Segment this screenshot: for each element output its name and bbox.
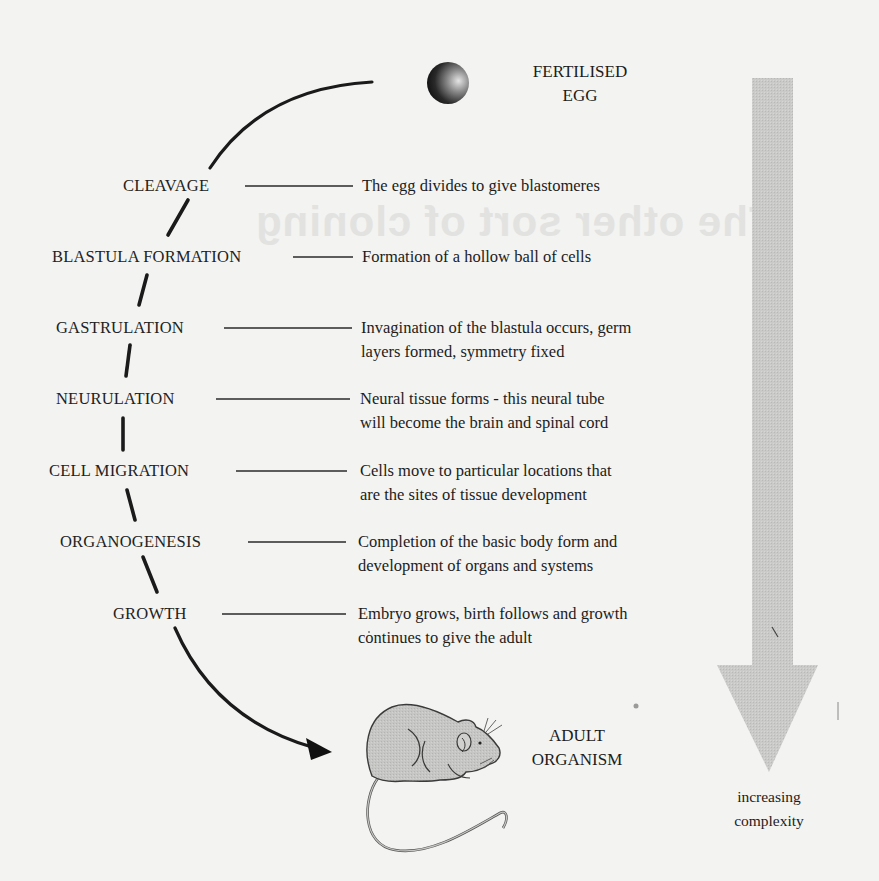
end-label-adult-organism: ADULT ORGANISM [517,724,637,772]
stage-blastula-formation: BLASTULA FORMATION [52,248,241,266]
developmental-path-top [210,82,372,168]
arrowhead-icon [306,738,332,760]
complexity-label: increasing complexity [719,785,819,833]
description-gastrulation: Invagination of the blastula occurs, ger… [361,316,631,364]
description-growth: Embryo grows, birth follows and growth c… [358,602,627,650]
description-blastula-formation: Formation of a hollow ball of cells [362,245,591,269]
stage-cell-migration: CELL MIGRATION [49,462,189,480]
description-organogenesis: Completion of the basic body form and de… [358,530,617,578]
start-label-fertilised-egg: FERTILISED EGG [525,60,635,108]
stage-growth: GROWTH [113,605,187,623]
stage-neurulation: NEURULATION [56,390,175,408]
egg-icon [427,62,469,104]
stage-gastrulation: GASTRULATION [56,319,184,337]
stage-cleavage: CLEAVAGE [123,177,209,195]
diagram-graphics [0,0,879,881]
description-neurulation: Neural tissue forms - this neural tube w… [360,387,608,435]
stage-organogenesis: ORGANOGENESIS [60,533,201,551]
development-diagram: The other sort of cloning [0,0,879,881]
developmental-path-bottom [175,628,315,748]
complexity-arrow-icon [717,78,838,772]
description-cell-migration: Cells move to particular locations that … [360,459,612,507]
description-cleavage: The egg divides to give blastomeres [362,174,600,198]
mouse-icon [367,705,506,851]
